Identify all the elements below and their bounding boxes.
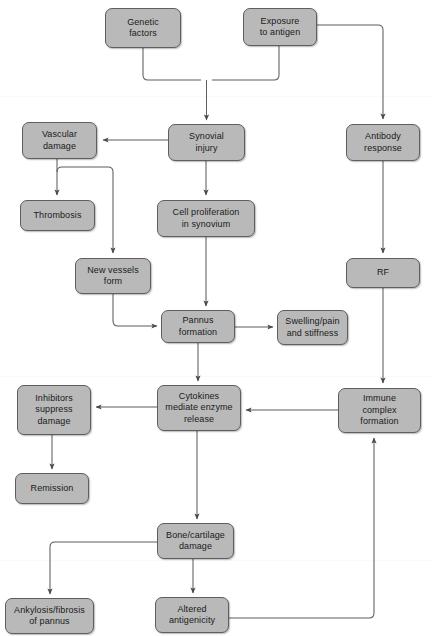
node-label: Inhibitors suppress damage xyxy=(35,393,73,428)
node-label: Cytokines mediate enzyme release xyxy=(165,391,232,426)
node-label: Synovial injury xyxy=(189,131,224,154)
node-synovial-injury[interactable]: Synovial injury xyxy=(168,124,245,161)
edge-exposure-to-antibody xyxy=(317,25,383,119)
node-thrombosis[interactable]: Thrombosis xyxy=(20,200,95,231)
node-bone-cartilage-damage[interactable]: Bone/cartilage damage xyxy=(157,523,234,559)
edge-newvessels-to-pannus xyxy=(113,294,157,326)
node-vascular-damage[interactable]: Vascular damage xyxy=(22,122,97,159)
node-label: Cell proliferation in synovium xyxy=(173,207,240,230)
edge-alteredantigen-to-immunecomplex xyxy=(229,438,374,618)
node-label: Exposure to antigen xyxy=(260,16,301,39)
node-antibody-response[interactable]: Antibody response xyxy=(346,124,420,161)
flowchart-diagram: Genetic factors Exposure to antigen Vasc… xyxy=(0,0,432,636)
node-label: Ankylosis/fibrosis of pannus xyxy=(14,605,85,628)
node-genetic-factors[interactable]: Genetic factors xyxy=(105,8,181,48)
node-label: Thrombosis xyxy=(33,210,81,222)
node-cytokines-mediate-enzyme-release[interactable]: Cytokines mediate enzyme release xyxy=(157,385,241,431)
node-new-vessels-form[interactable]: New vessels form xyxy=(75,258,151,294)
node-label: Bone/cartilage damage xyxy=(166,530,225,553)
node-cell-proliferation-in-synovium[interactable]: Cell proliferation in synovium xyxy=(157,200,255,237)
node-immune-complex-formation[interactable]: Immune complex formation xyxy=(338,388,421,433)
node-label: New vessels form xyxy=(87,265,139,288)
node-label: Altered antigenicity xyxy=(169,604,215,627)
node-rf[interactable]: RF xyxy=(346,258,420,288)
node-swelling-pain-and-stiffness[interactable]: Swelling/pain and stiffness xyxy=(277,310,348,345)
node-label: RF xyxy=(377,267,389,279)
node-remission[interactable]: Remission xyxy=(15,473,89,504)
edge-exposure-to-merge xyxy=(212,46,279,80)
node-label: Antibody response xyxy=(364,131,402,154)
node-altered-antigenicity[interactable]: Altered antigenicity xyxy=(155,597,229,633)
edge-bonecartilage-to-ankylosis xyxy=(50,542,157,594)
node-label: Vascular damage xyxy=(42,129,77,152)
node-label: Immune complex formation xyxy=(360,393,398,428)
node-exposure-to-antigen[interactable]: Exposure to antigen xyxy=(243,8,317,46)
node-label: Swelling/pain and stiffness xyxy=(285,316,339,339)
node-inhibitors-suppress-damage[interactable]: Inhibitors suppress damage xyxy=(17,385,91,435)
node-label: Genetic factors xyxy=(127,17,159,40)
node-ankylosis-fibrosis-of-pannus[interactable]: Ankylosis/fibrosis of pannus xyxy=(5,598,94,634)
node-label: Pannus formation xyxy=(179,315,217,338)
node-label: Remission xyxy=(31,483,74,495)
node-pannus-formation[interactable]: Pannus formation xyxy=(161,310,235,343)
edge-genetic-to-merge xyxy=(143,48,201,80)
